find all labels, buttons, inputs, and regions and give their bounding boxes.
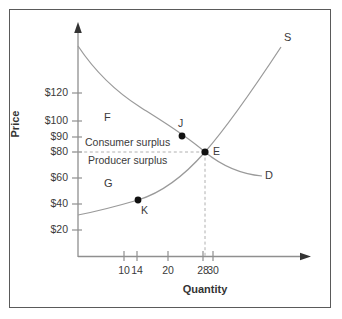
supply-curve-label: S: [284, 32, 291, 43]
producer-surplus-label: Producer surplus: [88, 155, 167, 166]
y-tick-label-90: $90: [28, 131, 68, 142]
region-label-f: F: [104, 112, 111, 123]
consumer-surplus-label: Consumer surplus: [85, 137, 170, 148]
y-axis-ticks: [72, 93, 82, 230]
point-k-marker: [135, 197, 142, 204]
point-j-marker: [179, 133, 186, 140]
supply-curve: [78, 47, 281, 215]
y-tick-label-60: $60: [28, 172, 68, 183]
y-tick-label-40: $40: [28, 198, 68, 209]
region-label-g: G: [104, 178, 113, 189]
demand-curve-label: D: [265, 170, 273, 181]
y-axis-arrow: [74, 22, 82, 33]
y-tick-label-80: $80: [28, 146, 68, 157]
y-tick-label-120: $120: [28, 87, 68, 98]
point-j-label: J: [178, 118, 183, 129]
point-e-marker: [201, 148, 208, 155]
x-axis-title: Quantity: [150, 283, 260, 295]
y-tick-label-100: $100: [28, 115, 68, 126]
x-tick-label-14: 14: [127, 265, 147, 276]
point-k-label: K: [141, 205, 148, 216]
y-axis-title: Price: [9, 102, 21, 146]
point-e-label: E: [213, 146, 220, 157]
x-tick-label-20: 20: [158, 265, 178, 276]
x-axis-arrow: [300, 253, 311, 261]
x-tick-label-30: 30: [203, 265, 223, 276]
y-tick-label-20: $20: [28, 224, 68, 235]
